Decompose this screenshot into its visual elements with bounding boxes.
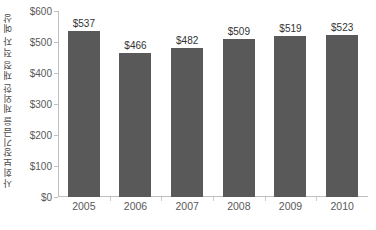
bars-layer: $537$466$482$509$519$523 — [58, 11, 368, 197]
x-axis-tick-label: 2010 — [330, 200, 353, 212]
bar[interactable] — [326, 35, 358, 197]
y-axis-tick-label: $200 — [30, 130, 52, 141]
y-axis-tick-label: $0 — [41, 192, 52, 203]
y-axis-tick-label: $500 — [30, 37, 52, 48]
y-axis-title-label: 사회보장기금을 제외한 재정 적자 예상 — [4, 13, 14, 188]
bar-value-label: $523 — [331, 22, 353, 33]
bar-group: $537 — [58, 11, 110, 197]
y-axis-title: 사회보장기금을 제외한 재정 적자 예상 — [0, 0, 17, 200]
x-axis-tick-label: 2008 — [227, 200, 250, 212]
x-axis-tick-label: 2009 — [279, 200, 302, 212]
bar-group: $523 — [316, 11, 368, 197]
y-axis-tickmark — [54, 11, 58, 12]
y-axis-tickmark — [54, 197, 58, 198]
x-axis-tick-labels: 200520062007200820092010 — [58, 200, 368, 218]
plot-area: $537$466$482$509$519$523 — [58, 11, 368, 197]
bar-value-label: $519 — [279, 23, 301, 34]
y-axis-tick-labels: $0$100$200$300$400$500$600 — [17, 0, 55, 205]
y-axis-tickmark — [54, 73, 58, 74]
bar[interactable] — [171, 48, 203, 197]
bar-group: $519 — [265, 11, 317, 197]
bar-value-label: $537 — [73, 18, 95, 29]
bar[interactable] — [274, 36, 306, 197]
x-axis-tick-label: 2006 — [124, 200, 147, 212]
y-axis-tick-label: $300 — [30, 99, 52, 110]
y-axis-tick-label: $100 — [30, 161, 52, 172]
y-axis-tickmark — [54, 104, 58, 105]
bar-value-label: $482 — [176, 35, 198, 46]
bar-group: $482 — [161, 11, 213, 197]
x-axis-tick-label: 2005 — [72, 200, 95, 212]
bar-value-label: $509 — [228, 26, 250, 37]
bar[interactable] — [223, 39, 255, 197]
y-axis-tick-label: $400 — [30, 68, 52, 79]
y-axis-tickmark — [54, 166, 58, 167]
bar-group: $466 — [110, 11, 162, 197]
x-axis-tick-label: 2007 — [175, 200, 198, 212]
y-axis-tick-label: $600 — [30, 6, 52, 17]
bar-group: $509 — [213, 11, 265, 197]
bar[interactable] — [68, 31, 100, 197]
bar[interactable] — [119, 53, 151, 197]
y-axis-tickmark — [54, 42, 58, 43]
bar-value-label: $466 — [124, 40, 146, 51]
bar-chart: 사회보장기금을 제외한 재정 적자 예상 $0$100$200$300$400$… — [0, 0, 376, 230]
y-axis-tickmark — [54, 135, 58, 136]
